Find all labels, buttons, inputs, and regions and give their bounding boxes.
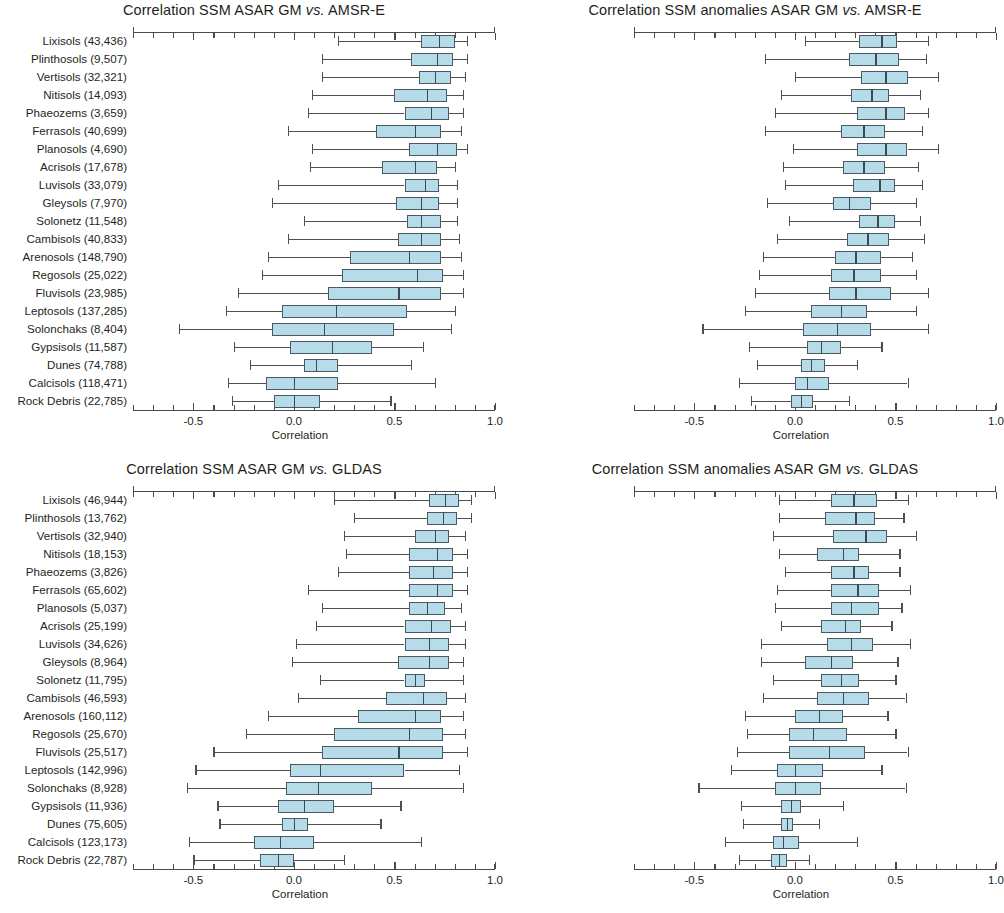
x-tick: [996, 492, 997, 499]
whisker-cap-left: [739, 855, 740, 866]
whisker-left: [739, 860, 771, 861]
box-median-line: [779, 854, 780, 867]
x-tick: [996, 862, 997, 869]
whisker-cap-right: [809, 855, 810, 866]
x-tick: [996, 403, 997, 410]
x-tick: [996, 33, 997, 40]
whisker-right: [787, 860, 809, 861]
